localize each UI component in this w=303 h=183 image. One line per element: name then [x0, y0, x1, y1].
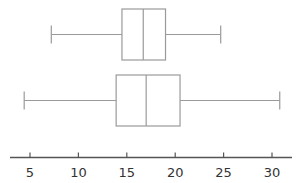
box-lower [24, 75, 280, 126]
x-tick-label: 30 [264, 165, 281, 180]
x-tick-label: 15 [119, 165, 136, 180]
box-upper [51, 9, 220, 60]
box-plot-series [24, 9, 280, 126]
x-tick-label: 20 [167, 165, 184, 180]
x-axis: 51015202530 [10, 153, 292, 180]
box-iqr [116, 75, 180, 126]
x-tick-label: 25 [215, 165, 232, 180]
x-tick-label: 5 [26, 165, 34, 180]
box-plot-chart: 51015202530 [0, 0, 303, 183]
x-tick-label: 10 [70, 165, 87, 180]
